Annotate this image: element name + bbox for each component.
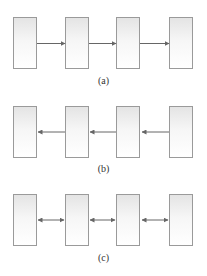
arrows-layer [0,0,207,276]
